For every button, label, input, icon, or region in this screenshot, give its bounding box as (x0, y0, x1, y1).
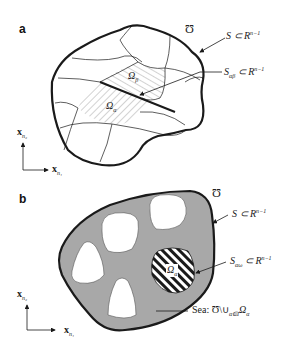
sea-label: Sea: Ʊ\∪α∈IΩα (192, 304, 249, 317)
region-alpha-label: Ωα (166, 264, 178, 277)
panel-letter-b: b (19, 192, 26, 206)
panel-a-diagram (0, 0, 291, 180)
interface-label: Sαβ ⊂ Rn−1 (224, 66, 264, 79)
panel-b: b Ʊ S ⊂ Rn−1 Sαω ⊂ Rn−1 Ωα Sea: Ʊ\∪α∈IΩα… (0, 175, 291, 358)
interface-label: Sαω ⊂ Rn−1 (230, 255, 272, 268)
axis-x-label: xn₁ (64, 324, 74, 337)
panel-a: a Ʊ S ⊂ Rn−1 Sαβ ⊂ Rn−1 Ωβ Ωα xn₂ xn₁ (0, 0, 291, 180)
island (102, 213, 139, 253)
axis-y-label: xn₂ (17, 288, 27, 301)
island (150, 195, 187, 230)
axis-y-label: xn₂ (17, 126, 27, 139)
boundary-leader (200, 38, 225, 52)
region-beta-label: Ωβ (128, 70, 138, 83)
region-alpha-label: Ωα (106, 100, 116, 113)
panel-letter-a: a (19, 22, 26, 36)
boundary-label: S ⊂ Rn−1 (232, 208, 266, 219)
domain-symbol: Ʊ (185, 22, 194, 37)
domain-symbol: Ʊ (212, 186, 221, 201)
boundary-label: S ⊂ Rn−1 (226, 30, 260, 41)
boundary-leader (213, 215, 228, 223)
